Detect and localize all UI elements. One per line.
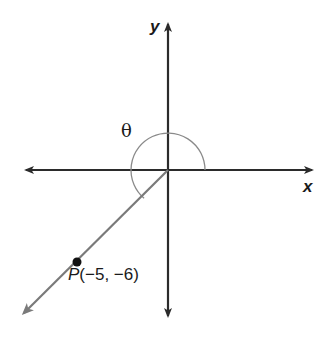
point-p-name: P (68, 265, 79, 284)
terminal-ray (24, 170, 168, 313)
coordinate-plane (0, 0, 327, 340)
diagram-canvas: y x θ P(−5, −6) (0, 0, 327, 340)
point-p-coords: (−5, −6) (79, 265, 139, 284)
point-p-label: P(−5, −6) (68, 265, 139, 285)
angle-theta-label: θ (121, 120, 132, 141)
y-axis-label: y (150, 17, 159, 37)
x-axis-label: x (303, 177, 312, 197)
